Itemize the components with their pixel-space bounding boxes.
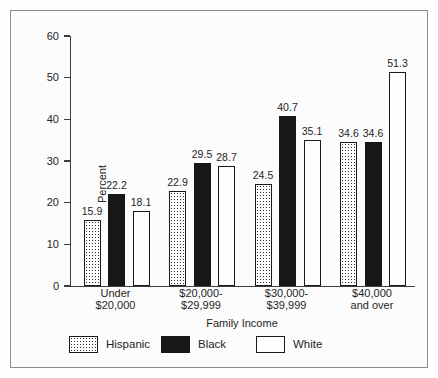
bar-value-label: 22.2 (97, 179, 137, 191)
bar-value-label: 15.9 (72, 205, 112, 217)
bar-hispanic-group2 (169, 191, 186, 286)
y-tick-mark (64, 35, 70, 37)
y-tick-label: 0 (23, 280, 59, 293)
x-category-label: Under$20,000 (71, 288, 161, 311)
y-tick-label: 20 (23, 196, 59, 209)
bar-white-group1 (133, 211, 150, 286)
bar-white-group2 (218, 166, 235, 286)
y-tick-label: 10 (23, 238, 59, 251)
y-tick-label: 40 (23, 113, 59, 126)
legend-label-hispanic: Hispanic (106, 336, 150, 353)
bar-black-group2 (194, 163, 211, 286)
y-tick-mark (64, 244, 70, 246)
legend-swatch-white (256, 336, 285, 353)
chart-figure: Percent 010203040506015.922.924.534.622.… (10, 10, 428, 368)
y-tick-label: 30 (23, 155, 59, 168)
y-tick-mark (64, 77, 70, 79)
legend-swatch-hispanic (69, 336, 98, 353)
bar-value-label: 18.1 (121, 196, 161, 208)
y-tick-label: 60 (23, 30, 59, 43)
x-category-label: $20,000-$29,999 (156, 288, 246, 311)
bar-hispanic-group3 (255, 184, 272, 286)
y-tick-mark (64, 202, 70, 204)
x-axis-title: Family Income (70, 317, 414, 329)
bar-value-label: 40.7 (268, 101, 308, 113)
y-tick-mark (64, 160, 70, 162)
bar-hispanic-group4 (340, 142, 357, 286)
bar-value-label: 35.1 (292, 125, 332, 137)
x-category-label: $30,000-$39,999 (242, 288, 332, 311)
bar-value-label: 22.9 (158, 176, 198, 188)
y-tick-mark (64, 119, 70, 121)
bar-black-group4 (365, 142, 382, 286)
y-tick-mark (64, 285, 70, 287)
bar-value-label: 34.6 (353, 127, 393, 139)
bar-hispanic-group1 (84, 220, 101, 286)
bar-black-group3 (279, 116, 296, 286)
legend-label-white: White (293, 336, 322, 353)
scanned-chart-page: Percent 010203040506015.922.924.534.622.… (0, 0, 438, 378)
bar-value-label: 28.7 (207, 151, 247, 163)
y-tick-label: 50 (23, 71, 59, 84)
plot-area: Percent 010203040506015.922.924.534.622.… (70, 36, 415, 287)
bar-white-group3 (304, 140, 321, 286)
bar-value-label: 24.5 (243, 169, 283, 181)
bar-value-label: 51.3 (378, 57, 418, 69)
x-category-label: $40,000and over (327, 288, 417, 311)
bar-white-group4 (389, 72, 406, 286)
legend-swatch-black (161, 336, 190, 353)
legend-label-black: Black (198, 336, 226, 353)
